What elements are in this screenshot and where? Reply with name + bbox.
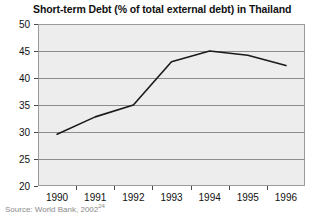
chart-canvas: [38, 24, 305, 186]
x-axis-tick-mark: [229, 186, 230, 190]
x-axis-tick-mark: [114, 186, 115, 190]
y-axis-tick-mark: [34, 132, 38, 133]
y-axis-tick-mark: [34, 78, 38, 79]
y-axis-tick-label: 50: [4, 19, 30, 30]
x-axis-tick-label: 1996: [266, 192, 306, 203]
data-line: [57, 51, 286, 134]
source-superscript: 24: [98, 203, 105, 209]
y-axis-tick-label: 30: [4, 127, 30, 138]
source-text: Source: World Bank, 2002: [5, 205, 98, 214]
y-axis-tick-label: 45: [4, 46, 30, 57]
y-axis-tick-mark: [34, 24, 38, 25]
x-axis-tick-label: 1992: [113, 192, 153, 203]
plot-wrapper: [38, 24, 305, 186]
x-axis-tick-mark: [191, 186, 192, 190]
data-series-group: [57, 51, 286, 134]
gridlines-group: [38, 51, 305, 159]
x-axis-tick-mark: [76, 186, 77, 190]
x-axis-tick-mark: [152, 186, 153, 190]
x-axis-tick-mark: [267, 186, 268, 190]
x-axis-tick-label: 1995: [228, 192, 268, 203]
y-axis-tick-mark: [34, 105, 38, 106]
y-axis-tick-label: 40: [4, 73, 30, 84]
x-axis-tick-label: 1991: [75, 192, 115, 203]
y-axis-tick-label: 20: [4, 181, 30, 192]
y-axis-tick-label: 25: [4, 154, 30, 165]
source-note: Source: World Bank, 200224: [5, 203, 105, 214]
y-axis-tick-mark: [34, 186, 38, 187]
chart-figure: Short-term Debt (% of total external deb…: [0, 0, 319, 220]
x-axis-tick-label: 1993: [152, 192, 192, 203]
y-axis-tick-mark: [34, 159, 38, 160]
y-axis-tick-mark: [34, 51, 38, 52]
x-axis-tick-label: 1990: [37, 192, 77, 203]
x-axis-tick-label: 1994: [190, 192, 230, 203]
chart-title: Short-term Debt (% of total external deb…: [33, 3, 313, 15]
y-axis-tick-label: 35: [4, 100, 30, 111]
